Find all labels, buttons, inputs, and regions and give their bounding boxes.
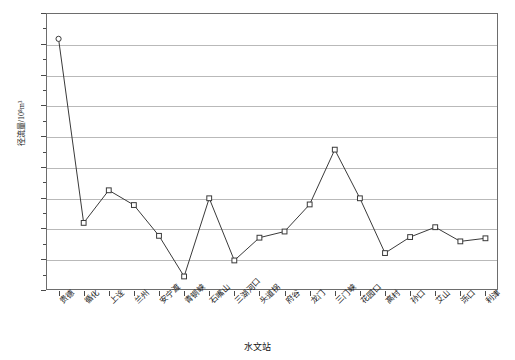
data-point: [282, 229, 287, 234]
y-tick-mark: [41, 259, 46, 260]
data-series: [46, 13, 498, 290]
data-point: [307, 202, 312, 207]
y-tick-mark-minor: [43, 28, 46, 29]
data-point: [332, 147, 337, 152]
data-point: [157, 233, 162, 238]
data-point: [483, 236, 488, 241]
y-tick-mark-minor: [43, 59, 46, 60]
series-line: [59, 39, 486, 277]
y-tick-mark: [41, 290, 46, 291]
data-point: [81, 221, 86, 226]
y-tick-mark-minor: [43, 152, 46, 153]
data-point: [257, 235, 262, 240]
y-tick-mark-minor: [43, 90, 46, 91]
data-point: [458, 239, 463, 244]
chart-figure: 径流量/10⁸m³ 水文站 350300250200150100500−50−1…: [0, 0, 515, 360]
y-tick-mark: [41, 44, 46, 45]
y-tick-mark: [41, 105, 46, 106]
y-tick-mark-minor: [43, 182, 46, 183]
data-point: [383, 251, 388, 256]
y-tick-mark-minor: [43, 244, 46, 245]
data-point: [357, 196, 362, 201]
y-tick-mark: [41, 198, 46, 199]
y-tick-mark-minor: [43, 213, 46, 214]
y-axis-title: 径流量/10⁸m³: [15, 74, 26, 174]
y-tick-mark-minor: [43, 275, 46, 276]
y-tick-mark: [41, 13, 46, 14]
data-point: [408, 235, 413, 240]
data-point: [106, 188, 111, 193]
data-point: [232, 258, 237, 263]
y-tick-mark: [41, 228, 46, 229]
y-tick-mark: [41, 75, 46, 76]
y-tick-mark: [41, 167, 46, 168]
data-point: [131, 203, 136, 208]
data-point: [207, 196, 212, 201]
y-tick-mark-minor: [43, 121, 46, 122]
data-point: [433, 225, 438, 230]
x-axis-title: 水文站: [0, 340, 515, 353]
data-point: [56, 36, 61, 41]
y-tick-mark: [41, 136, 46, 137]
data-point: [182, 274, 187, 279]
